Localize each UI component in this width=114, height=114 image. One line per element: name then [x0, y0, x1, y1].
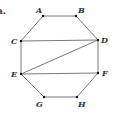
vertex-point-b	[75, 15, 77, 17]
vertex-point-d	[97, 39, 99, 41]
vertex-label-h: H	[77, 99, 86, 109]
vertex-label-f: F	[101, 68, 109, 78]
edges	[21, 16, 98, 97]
vertex-point-a	[42, 15, 44, 17]
vertex-point-c	[20, 40, 22, 42]
edge-ca	[21, 16, 43, 41]
vertex-label-d: D	[100, 35, 108, 45]
edge-ef	[21, 73, 98, 74]
vertex-point-h	[76, 96, 78, 98]
edge-cd	[21, 40, 98, 41]
edge-ge	[21, 74, 44, 97]
part-label: a.	[0, 6, 6, 16]
vertex-point-g	[43, 96, 45, 98]
vertex-label-c: C	[11, 36, 18, 46]
edge-ed	[21, 40, 98, 74]
vertex-point-f	[97, 72, 99, 74]
vertex-label-b: B	[77, 5, 85, 15]
octagon-diagram: a. ABCDEFGH	[0, 0, 114, 114]
vertex-point-e	[20, 73, 22, 75]
edge-bd	[76, 16, 98, 40]
vertex-label-g: G	[36, 99, 43, 109]
vertex-label-e: E	[10, 69, 18, 79]
vertex-label-a: A	[35, 5, 42, 15]
edge-fh	[77, 73, 98, 97]
